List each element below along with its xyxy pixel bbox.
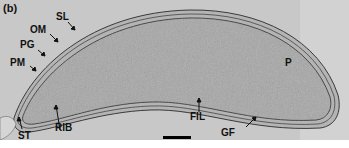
cell-micrograph: [0, 0, 349, 148]
label-p: P: [285, 58, 292, 68]
panel-label: (b): [3, 2, 17, 14]
scale-bar: [163, 136, 191, 139]
bottom-margin: [0, 140, 349, 148]
label-om: OM: [30, 25, 46, 35]
micrograph-figure: (b) SL OM PG PM ST RIB FIL GF P: [0, 0, 349, 148]
label-pm: PM: [10, 58, 25, 68]
label-fil: FIL: [190, 112, 205, 122]
label-pg: PG: [20, 40, 34, 50]
label-sl: SL: [56, 12, 69, 22]
label-gf: GF: [221, 128, 235, 138]
label-rib: RIB: [55, 123, 72, 133]
